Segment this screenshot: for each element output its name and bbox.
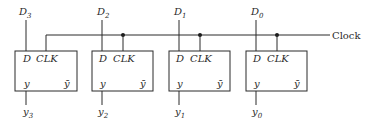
pin-clk: CLK — [190, 53, 212, 64]
pin-d: D — [252, 53, 261, 64]
output-label: y1 — [174, 106, 185, 120]
pin-q: y — [253, 78, 260, 89]
pin-q: y — [176, 78, 183, 89]
input-label: D3 — [18, 6, 32, 20]
register-diagram: Clock D3 D CLK y ȳ y3 D2 D CLK y ȳ y2 D1… — [0, 0, 368, 126]
pin-clk: CLK — [267, 53, 289, 64]
flipflop-3: D3 D CLK y ȳ y3 — [15, 6, 77, 120]
pin-qbar: ȳ — [293, 78, 300, 89]
pin-clk: CLK — [113, 53, 135, 64]
input-label: D1 — [173, 6, 187, 20]
input-label: D2 — [96, 6, 110, 20]
output-label: y3 — [22, 106, 34, 120]
input-label: D0 — [250, 6, 264, 20]
pin-d: D — [22, 53, 31, 64]
pin-qbar: ȳ — [216, 78, 223, 89]
flipflop-1: D1 D CLK y ȳ y1 — [169, 6, 230, 120]
output-label: y0 — [251, 106, 263, 120]
pin-qbar: ȳ — [139, 78, 146, 89]
pin-clk: CLK — [36, 53, 58, 64]
pin-qbar: ȳ — [63, 78, 70, 89]
pin-d: D — [175, 53, 184, 64]
pin-q: y — [23, 78, 30, 89]
flipflop-2: D2 D CLK y ȳ y2 — [92, 6, 153, 120]
clock-label: Clock — [332, 30, 361, 41]
pin-q: y — [99, 78, 106, 89]
pin-d: D — [98, 53, 107, 64]
output-label: y2 — [97, 106, 109, 120]
flipflop-0: D0 D CLK y ȳ y0 — [246, 6, 307, 120]
